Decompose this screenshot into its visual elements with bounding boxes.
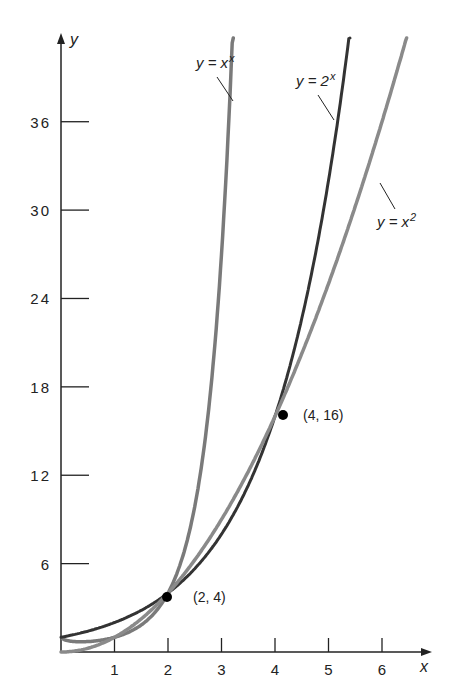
x-tick-label: 5: [324, 661, 332, 678]
x-tick-label: 6: [378, 661, 386, 678]
intersection-label: (4, 16): [303, 407, 343, 423]
curve-label: y = 2x: [295, 70, 336, 89]
intersection-point: [162, 592, 172, 602]
y-tick-label: 36: [30, 114, 51, 131]
x-axis-label: x: [419, 658, 429, 675]
curve-x-squared: [61, 38, 407, 652]
y-axis-label: y: [69, 31, 79, 48]
x-tick-label: 1: [110, 661, 118, 678]
y-tick-label: 6: [41, 556, 51, 573]
leader-line: [318, 95, 334, 120]
leader-line: [380, 183, 395, 209]
chart-canvas: 12345661218243036 y = xxy = 2xy = x2(2, …: [0, 0, 455, 680]
y-tick-label: 12: [30, 467, 51, 484]
y-tick-label: 18: [30, 379, 51, 396]
curve-label: y = xx: [195, 52, 235, 71]
x-tick-label: 3: [217, 661, 225, 678]
x-tick-label: 4: [271, 661, 279, 678]
intersection-label: (2, 4): [193, 589, 226, 605]
axes: [57, 33, 432, 656]
y-tick-label: 30: [30, 202, 51, 219]
y-axis-arrow-icon: [57, 33, 65, 44]
curve-label: y = x2: [376, 211, 416, 230]
x-tick-label: 2: [164, 661, 172, 678]
x-axis-arrow-icon: [421, 648, 432, 656]
intersection-point: [278, 410, 288, 420]
y-tick-label: 24: [30, 290, 51, 307]
